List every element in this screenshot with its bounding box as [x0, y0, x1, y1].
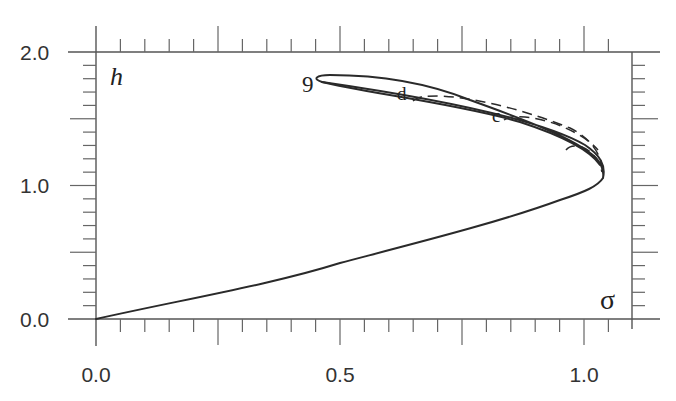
h-vs-sigma-chart: 2.0 1.0 0.0 0.0 0.5 1.0 h σ 9 d c — [0, 0, 676, 401]
curve-label-d: d — [397, 83, 407, 104]
x-tick-label-1: 0.5 — [325, 363, 354, 386]
curves — [96, 75, 604, 319]
y-tick-label-1: 1.0 — [20, 174, 49, 197]
x-tick-label-2: 1.0 — [569, 363, 598, 386]
curve-label-9: 9 — [302, 72, 314, 97]
curve-label-c: c — [492, 105, 500, 126]
y-tick-labels: 2.0 1.0 0.0 — [20, 41, 49, 331]
axes-frame — [68, 26, 660, 346]
y-tick-label-2: 2.0 — [20, 41, 49, 64]
x-axis-label: σ — [600, 284, 615, 315]
y-axis-label: h — [110, 62, 123, 91]
curve-9 — [96, 75, 604, 319]
x-tick-labels: 0.0 0.5 1.0 — [81, 363, 598, 386]
x-tick-label-0: 0.0 — [81, 363, 110, 386]
y-tick-label-0: 0.0 — [20, 308, 49, 331]
axis-ticks — [70, 26, 658, 345]
